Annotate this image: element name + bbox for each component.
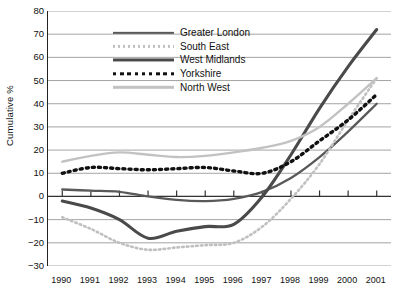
y-tick-label: 70 [20,29,44,39]
y-tick-label: −20 [20,238,44,248]
x-tick-label: 1996 [223,275,243,285]
x-tick-label: 1994 [166,275,186,285]
legend-label-yorkshire: Yorkshire [174,68,221,79]
legend-item-yorkshire: Yorkshire [113,67,293,81]
y-tick-label: 10 [20,169,44,179]
y-tick-label: 50 [20,76,44,86]
legend-swatch-yorkshire [113,68,174,80]
x-tick-label: 1997 [251,275,271,285]
y-tick-label: 80 [20,6,44,16]
y-axis-title: Cumulative % [0,0,19,230]
legend-label-west-midlands: West Midlands [174,54,245,65]
x-tick-label: 1998 [280,275,300,285]
legend-item-south-east: South East [113,40,293,54]
legend-label-greater-london: Greater London [174,27,250,38]
y-tick-label: 30 [20,122,44,132]
x-tick-label: 2000 [337,275,357,285]
legend-swatch-greater-london [113,27,174,39]
legend-item-greater-london: Greater London [113,26,293,40]
x-tick-label: 1995 [194,275,214,285]
legend-swatch-south-east [113,40,174,52]
legend-item-north-west: North West [113,80,293,94]
y-tick-label: 0 [20,192,44,202]
y-tick-label: −10 [20,215,44,225]
y-tick-label: 60 [20,53,44,63]
series-line-yorkshire [62,94,376,173]
legend: Greater London South East West Midlands … [113,26,293,94]
x-tick-label: 1993 [137,275,157,285]
x-tick-label: 1999 [309,275,329,285]
legend-item-west-midlands: West Midlands [113,53,293,67]
line-chart: Cumulative % 80706050403020100−10−20−30 … [0,0,394,297]
legend-label-north-west: North West [174,82,230,93]
x-tick-label: 1992 [108,275,128,285]
y-tick-label: −30 [20,261,44,271]
y-tick-label: 40 [20,99,44,109]
x-tick-label: 1990 [51,275,71,285]
legend-label-south-east: South East [174,41,229,52]
y-tick-label: 20 [20,145,44,155]
legend-swatch-west-midlands [113,54,174,66]
x-tick-label: 2001 [366,275,386,285]
legend-swatch-north-west [113,81,174,93]
x-tick-label: 1991 [80,275,100,285]
